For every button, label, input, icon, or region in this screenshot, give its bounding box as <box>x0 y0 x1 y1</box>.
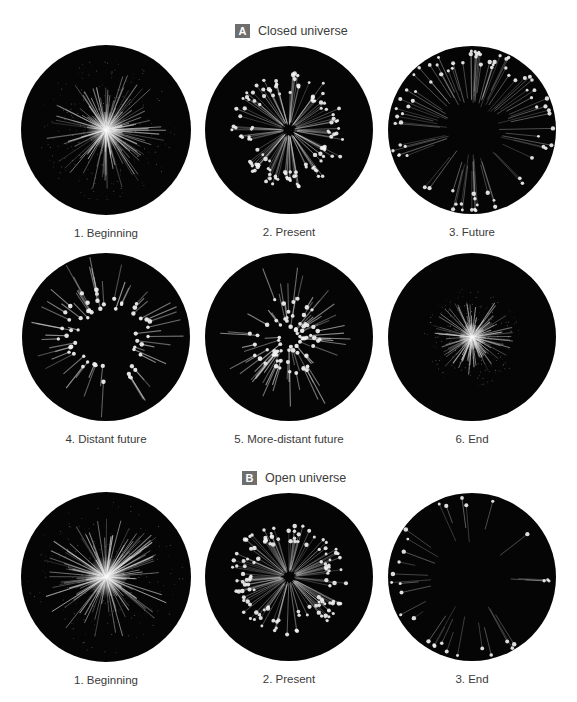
universe-disc <box>388 493 556 661</box>
caption: 1. Beginning <box>26 674 186 686</box>
caption: 1. Beginning <box>26 227 186 239</box>
caption: 3. Future <box>392 226 552 238</box>
universe-disc <box>205 253 373 421</box>
universe-disc <box>388 46 556 214</box>
section-a-badge: A <box>235 24 250 38</box>
caption: 3. End <box>392 673 552 685</box>
section-a-label: Closed universe <box>258 24 348 38</box>
section-b-badge: B <box>242 471 257 485</box>
universe-disc <box>21 492 191 662</box>
universe-disc <box>205 46 373 214</box>
caption: 5. More-distant future <box>209 433 369 445</box>
section-a-title: A Closed universe <box>235 24 348 38</box>
caption: 4. Distant future <box>26 433 186 445</box>
universe-disc <box>388 253 556 421</box>
caption: 2. Present <box>209 226 369 238</box>
universe-disc <box>21 45 191 215</box>
universe-disc <box>205 493 373 661</box>
section-b-title: B Open universe <box>242 471 346 485</box>
universe-disc <box>22 253 190 421</box>
section-b-label: Open universe <box>265 471 346 485</box>
caption: 2. Present <box>209 673 369 685</box>
caption: 6. End <box>392 433 552 445</box>
